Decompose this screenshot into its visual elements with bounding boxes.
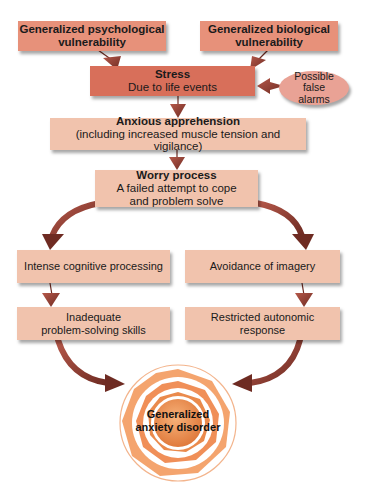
arrow-inadequate-to-gad xyxy=(58,340,125,392)
node-biological-vulnerability: Generalized biological vulnerability xyxy=(200,21,338,51)
node-text: anxiety disorder xyxy=(128,421,228,434)
node-text: vulnerability xyxy=(58,36,126,49)
arrow-restricted-to-gad xyxy=(232,340,300,392)
arrow-worry-to-intense xyxy=(42,203,100,250)
node-text: Generalized biological xyxy=(208,23,330,36)
node-text: response xyxy=(240,324,285,336)
node-title: Worry process xyxy=(136,169,216,182)
node-text: Inadequate xyxy=(66,311,121,323)
node-stress: Stress Due to life events xyxy=(90,66,255,96)
node-anxious-apprehension: Anxious apprehension (including increase… xyxy=(50,118,306,150)
node-text: Generalized xyxy=(128,408,228,421)
node-text: Restricted autonomic xyxy=(211,311,314,323)
node-psychological-vulnerability: Generalized psychological vulnerability xyxy=(18,21,166,51)
node-text: problem-solving skills xyxy=(41,324,146,336)
node-text: and problem solve xyxy=(130,195,224,208)
node-generalized-anxiety-disorder: Generalized anxiety disorder xyxy=(128,408,228,433)
arrow-intense-to-inadequate xyxy=(42,283,60,307)
node-text: Intense cognitive processing xyxy=(24,260,163,272)
node-text: Due to life events xyxy=(128,81,217,94)
node-text: alarms xyxy=(298,94,330,106)
node-avoidance-of-imagery: Avoidance of imagery xyxy=(185,250,340,283)
node-restricted-autonomic-response: Restricted autonomic response xyxy=(185,307,340,340)
node-text: Generalized psychological xyxy=(19,23,164,36)
node-worry-process: Worry process A failed attempt to cope a… xyxy=(95,170,258,207)
arrow-avoidance-to-restricted xyxy=(295,283,313,307)
node-text: (including increased muscle tension and … xyxy=(50,128,306,154)
node-intense-cognitive-processing: Intense cognitive processing xyxy=(17,250,170,283)
arrow-worry-to-avoidance xyxy=(256,203,314,250)
node-text: A failed attempt to cope xyxy=(116,182,236,195)
node-title: Anxious apprehension xyxy=(116,115,240,128)
node-possible-false-alarms: Possible false alarms xyxy=(279,71,349,105)
node-title: Stress xyxy=(155,68,190,81)
node-inadequate-problem-solving: Inadequate problem-solving skills xyxy=(17,307,170,340)
node-text: vulnerability xyxy=(235,36,303,49)
node-text: Avoidance of imagery xyxy=(210,260,316,272)
